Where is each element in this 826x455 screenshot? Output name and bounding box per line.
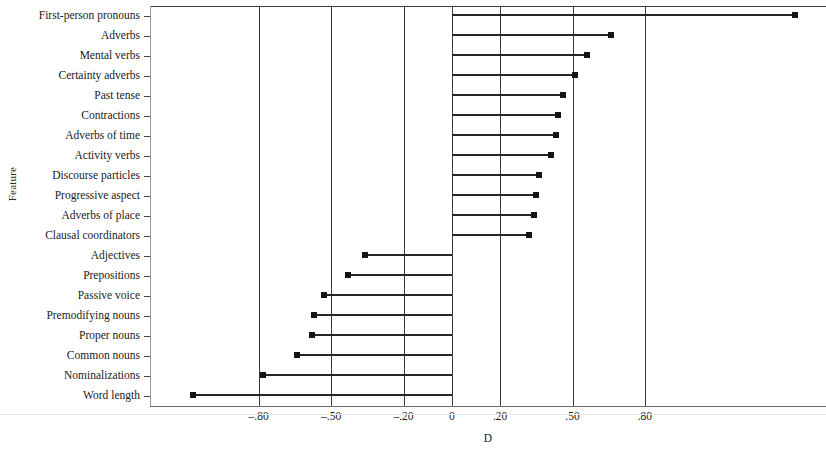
chart-row <box>150 86 826 104</box>
chart-row <box>150 146 826 164</box>
x-axis-tick-label: –.80 <box>249 410 269 422</box>
chart-row <box>150 346 826 364</box>
data-point-marker <box>294 352 300 358</box>
x-axis-tick-label: .50 <box>565 410 579 422</box>
page-rule <box>0 414 826 415</box>
y-axis-title: Feature <box>6 154 18 214</box>
bar-line <box>452 14 795 16</box>
data-point-marker <box>553 132 559 138</box>
chart-row <box>150 46 826 64</box>
data-point-marker <box>560 92 566 98</box>
chart-figure: Feature First-person pronounsAdverbsMent… <box>0 0 826 455</box>
y-axis-label: First-person pronouns <box>0 10 142 21</box>
data-point-marker <box>345 272 351 278</box>
data-point-marker <box>608 32 614 38</box>
data-point-marker <box>190 392 196 398</box>
y-axis-label: Discourse particles <box>0 170 142 181</box>
y-axis-label: Activity verbs <box>0 150 142 161</box>
y-axis-label: Adverbs <box>0 30 142 41</box>
chart-row <box>150 6 826 24</box>
y-axis-tick-mark <box>144 316 150 317</box>
data-point-marker <box>526 232 532 238</box>
y-axis-label: Adverbs of time <box>0 130 142 141</box>
y-axis-tick-mark <box>144 56 150 57</box>
y-axis-tick-mark <box>144 96 150 97</box>
x-axis-tick-label: .20 <box>493 410 507 422</box>
y-axis-tick-mark <box>144 176 150 177</box>
bar-line <box>452 54 587 56</box>
bar-line <box>365 254 452 256</box>
y-axis-label: Adverbs of place <box>0 210 142 221</box>
bar-line <box>452 234 529 236</box>
bar-line <box>312 334 452 336</box>
data-point-marker <box>311 312 317 318</box>
data-point-marker <box>548 152 554 158</box>
data-point-marker <box>572 72 578 78</box>
bar-line <box>348 274 452 276</box>
bar-line <box>452 34 611 36</box>
chart-row <box>150 386 826 404</box>
x-axis-tick-mark <box>645 398 646 406</box>
bar-line <box>452 94 563 96</box>
bar-line <box>324 294 452 296</box>
x-axis-tick-mark <box>404 398 405 406</box>
bar-line <box>452 194 537 196</box>
data-point-marker <box>555 112 561 118</box>
chart-row <box>150 186 826 204</box>
y-axis-label: Nominalizations <box>0 370 142 381</box>
y-axis-tick-mark <box>144 276 150 277</box>
chart-row <box>150 306 826 324</box>
y-axis-tick-mark <box>144 36 150 37</box>
chart-row <box>150 226 826 244</box>
bar-line <box>452 154 551 156</box>
y-axis-label: Mental verbs <box>0 50 142 61</box>
x-axis-tick-mark <box>500 398 501 406</box>
data-point-marker <box>531 212 537 218</box>
x-axis-tick-mark <box>331 398 332 406</box>
bar-line <box>452 114 558 116</box>
y-axis-tick-mark <box>144 336 150 337</box>
y-axis-tick-mark <box>144 136 150 137</box>
chart-row <box>150 126 826 144</box>
chart-row <box>150 266 826 284</box>
bar-line <box>297 354 452 356</box>
chart-row <box>150 166 826 184</box>
data-point-marker <box>584 52 590 58</box>
x-axis-tick-label: .80 <box>638 410 652 422</box>
y-axis-label: Progressive aspect <box>0 190 142 201</box>
bar-line <box>193 394 451 396</box>
y-axis-tick-mark <box>144 76 150 77</box>
y-axis-label: Adjectives <box>0 250 142 261</box>
plot-area <box>150 6 826 406</box>
x-axis-tick-label: –.20 <box>393 410 413 422</box>
bar-line <box>263 374 451 376</box>
y-axis-tick-mark <box>144 396 150 397</box>
y-axis-tick-mark <box>144 356 150 357</box>
bar-line <box>452 134 556 136</box>
chart-row <box>150 206 826 224</box>
y-axis-label: Word length <box>0 390 142 401</box>
data-point-marker <box>260 372 266 378</box>
chart-row <box>150 26 826 44</box>
x-axis-tick-mark <box>259 398 260 406</box>
chart-row <box>150 326 826 344</box>
y-axis-label: Common nouns <box>0 350 142 361</box>
y-axis-tick-mark <box>144 116 150 117</box>
y-axis-label: Contractions <box>0 110 142 121</box>
bar-line <box>314 314 452 316</box>
y-axis-label: Certainty adverbs <box>0 70 142 81</box>
bar-line <box>452 174 539 176</box>
x-axis-tick-label: 0 <box>449 410 455 422</box>
bar-line <box>452 74 575 76</box>
y-axis-label: Premodifying nouns <box>0 310 142 321</box>
data-point-marker <box>536 172 542 178</box>
y-axis-label: Past tense <box>0 90 142 101</box>
x-axis-tick-mark <box>452 398 453 406</box>
y-axis-tick-mark <box>144 216 150 217</box>
y-axis-tick-mark <box>144 256 150 257</box>
y-axis-label: Passive voice <box>0 290 142 301</box>
y-axis-label: Clausal coordinators <box>0 230 142 241</box>
x-axis-title: D <box>150 432 826 444</box>
data-point-marker <box>321 292 327 298</box>
y-axis-tick-mark <box>144 236 150 237</box>
